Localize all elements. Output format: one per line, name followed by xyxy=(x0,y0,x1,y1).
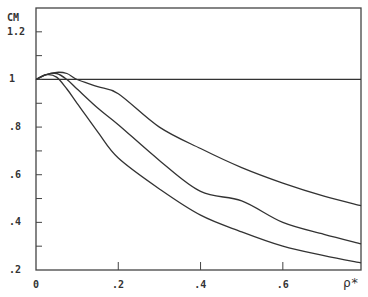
x-tick-label: .4 xyxy=(194,280,206,290)
curve-middle xyxy=(36,73,361,244)
curve-upper xyxy=(36,72,361,205)
data-curves xyxy=(36,72,361,263)
y-tick-label: 1 xyxy=(9,74,15,84)
x-axis-title: ρ* xyxy=(343,276,359,289)
curve-lower xyxy=(36,75,361,263)
x-tick-label: .2 xyxy=(112,280,124,290)
y-tick-label: .2 xyxy=(9,265,21,275)
x-tick-label: 0 xyxy=(33,280,39,290)
y-axis-title: CM xyxy=(7,13,19,23)
y-tick-label: .4 xyxy=(9,217,21,227)
x-axis-ticks xyxy=(118,262,283,270)
chart-canvas xyxy=(0,0,368,297)
y-tick-label: .6 xyxy=(9,170,21,180)
y-tick-label: .8 xyxy=(9,122,21,132)
y-axis-ticks xyxy=(36,32,42,246)
y-tick-label: 1.2 xyxy=(7,27,25,37)
x-tick-label: .6 xyxy=(277,280,289,290)
